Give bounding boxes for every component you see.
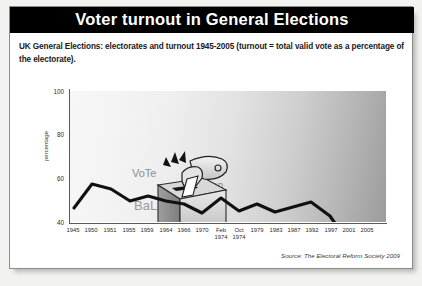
y-axis-line xyxy=(69,89,70,224)
chart-subtitle: UK General Elections: electorates and tu… xyxy=(19,40,404,66)
x-tick-2005: 2005 xyxy=(355,227,379,234)
page-title: Voter turnout in General Elections xyxy=(10,10,414,29)
y-tick-80: 80 xyxy=(42,131,64,138)
turnout-line-chart: percentage 100 80 60 40 xyxy=(36,85,396,245)
infographic-card: Voter turnout in General Elections UK Ge… xyxy=(9,6,413,269)
y-tick-100: 100 xyxy=(42,88,64,95)
turnout-line-series xyxy=(70,91,386,222)
x-axis-line xyxy=(69,223,387,224)
source-credit: Source: The Electoral Reform Society 200… xyxy=(281,252,400,259)
y-tick-40: 40 xyxy=(42,219,64,226)
screenshot-root: Voter turnout in General Elections UK Ge… xyxy=(0,0,422,286)
title-bar: Voter turnout in General Elections xyxy=(10,7,414,33)
y-tick-60: 60 xyxy=(42,175,64,182)
y-axis-title: percentage xyxy=(43,116,49,176)
plot-area: VoTe ElecTion BaLLoT xyxy=(70,91,386,222)
